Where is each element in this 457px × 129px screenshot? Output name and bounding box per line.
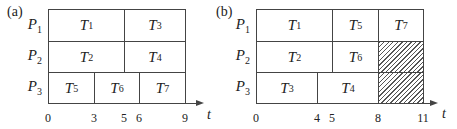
tick-label: 5 <box>329 111 335 126</box>
idle-block-p3 <box>378 72 424 104</box>
task-block-t5: T5 <box>332 9 379 42</box>
task-block-t6: T6 <box>332 41 379 73</box>
task-block-t2: T2 <box>256 41 333 73</box>
axis-arrow-icon <box>430 100 438 106</box>
tick-label: 4 <box>314 111 320 126</box>
tick-label: 0 <box>253 111 259 126</box>
gantt-panel-b: (b) P1 P2 P3 T1 T5 T7 T2 T6 T3 T4 t 0 4 … <box>0 0 457 129</box>
tick-label: 8 <box>375 111 381 126</box>
task-block-t4: T4 <box>317 72 379 104</box>
axis-label-t: t <box>442 106 446 122</box>
processor-label-p1: P1 <box>228 16 250 35</box>
tick-label: 11 <box>417 111 429 126</box>
processor-label-p3: P3 <box>228 78 250 97</box>
task-block-t3: T3 <box>256 72 318 104</box>
task-block-t1: T1 <box>256 9 333 42</box>
task-block-t7: T7 <box>378 9 424 42</box>
processor-label-p2: P2 <box>228 47 250 66</box>
time-axis <box>256 103 432 104</box>
idle-block-p2 <box>378 41 424 73</box>
